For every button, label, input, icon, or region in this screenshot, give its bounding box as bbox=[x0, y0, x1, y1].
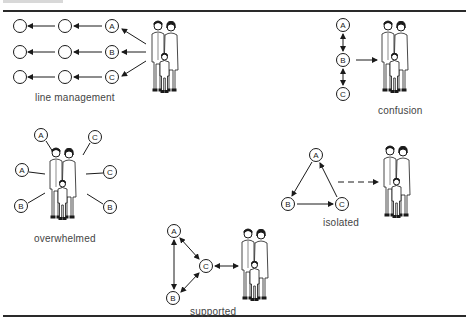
svg-text:A: A bbox=[340, 21, 346, 30]
svg-text:C: C bbox=[340, 90, 346, 99]
panel-overwhelmed bbox=[15, 129, 117, 220]
svg-text:A: A bbox=[313, 151, 319, 160]
caption-supported: supported bbox=[190, 306, 236, 317]
caption-overwhelmed: overwhelmed bbox=[34, 233, 96, 244]
svg-text:B: B bbox=[109, 48, 114, 57]
panel-isolated bbox=[282, 146, 411, 218]
caption-confusion: confusion bbox=[378, 105, 423, 116]
svg-text:B: B bbox=[18, 202, 23, 211]
support-diagrams: ABC ABC AC AC BB ABC ABC bbox=[0, 0, 473, 330]
svg-text:B: B bbox=[285, 200, 290, 209]
svg-text:B: B bbox=[107, 203, 112, 212]
panel-line-management bbox=[14, 20, 179, 93]
svg-text:C: C bbox=[107, 168, 113, 177]
svg-text:C: C bbox=[92, 133, 98, 142]
svg-text:A: A bbox=[109, 22, 115, 31]
svg-text:B: B bbox=[170, 294, 175, 303]
svg-text:C: C bbox=[339, 200, 345, 209]
svg-text:A: A bbox=[171, 227, 177, 236]
caption-line-management: line management bbox=[35, 92, 115, 103]
svg-text:B: B bbox=[340, 56, 345, 65]
svg-text:A: A bbox=[19, 166, 25, 175]
svg-text:C: C bbox=[203, 262, 209, 271]
caption-isolated: isolated bbox=[323, 217, 359, 228]
svg-text:A: A bbox=[38, 131, 44, 140]
panel-supported bbox=[167, 225, 269, 305]
panel-confusion bbox=[337, 19, 409, 101]
svg-text:C: C bbox=[109, 73, 115, 82]
